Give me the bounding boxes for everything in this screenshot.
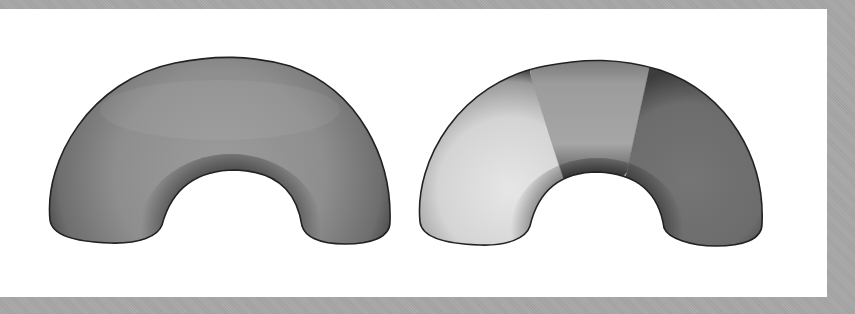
figure-scene — [0, 0, 855, 314]
uniform-half-torus — [49, 57, 390, 310]
segmented-half-torus — [400, 40, 780, 310]
figure-frame — [0, 0, 855, 314]
